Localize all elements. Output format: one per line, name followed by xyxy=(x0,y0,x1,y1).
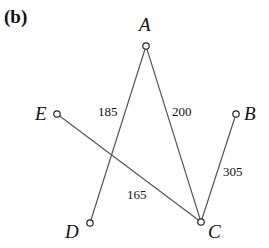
node-B-label: B xyxy=(244,103,256,125)
edge-E-C xyxy=(57,114,201,222)
node-D-label: D xyxy=(65,221,79,243)
node-C-circle xyxy=(198,219,204,225)
node-A-circle xyxy=(143,43,149,49)
edge-B-C-weight: 305 xyxy=(223,164,243,180)
node-B-circle xyxy=(233,111,239,117)
edge-A-C-weight: 200 xyxy=(172,104,192,120)
edge-A-C xyxy=(146,46,201,222)
edge-A-D-weight: 185 xyxy=(98,104,118,120)
node-C-label: C xyxy=(208,221,221,243)
node-E-circle xyxy=(54,111,60,117)
node-E-label: E xyxy=(35,103,47,125)
node-D-circle xyxy=(87,220,93,226)
graph-diagram: (b) A B C D E 185 200 165 305 xyxy=(0,0,269,248)
node-A-label: A xyxy=(139,14,151,36)
edge-E-C-weight: 165 xyxy=(127,187,147,203)
panel-label: (b) xyxy=(4,6,27,28)
